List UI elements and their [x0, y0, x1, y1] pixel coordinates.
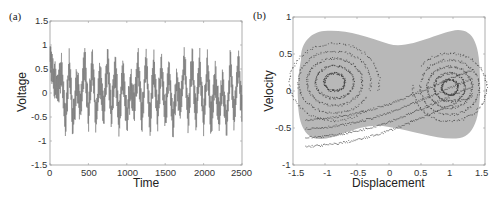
panel-b-plot-area	[288, 17, 488, 165]
panel-a-plot-area	[50, 21, 242, 165]
trajectory-envelope	[298, 30, 480, 139]
figure-canvas	[0, 0, 496, 198]
